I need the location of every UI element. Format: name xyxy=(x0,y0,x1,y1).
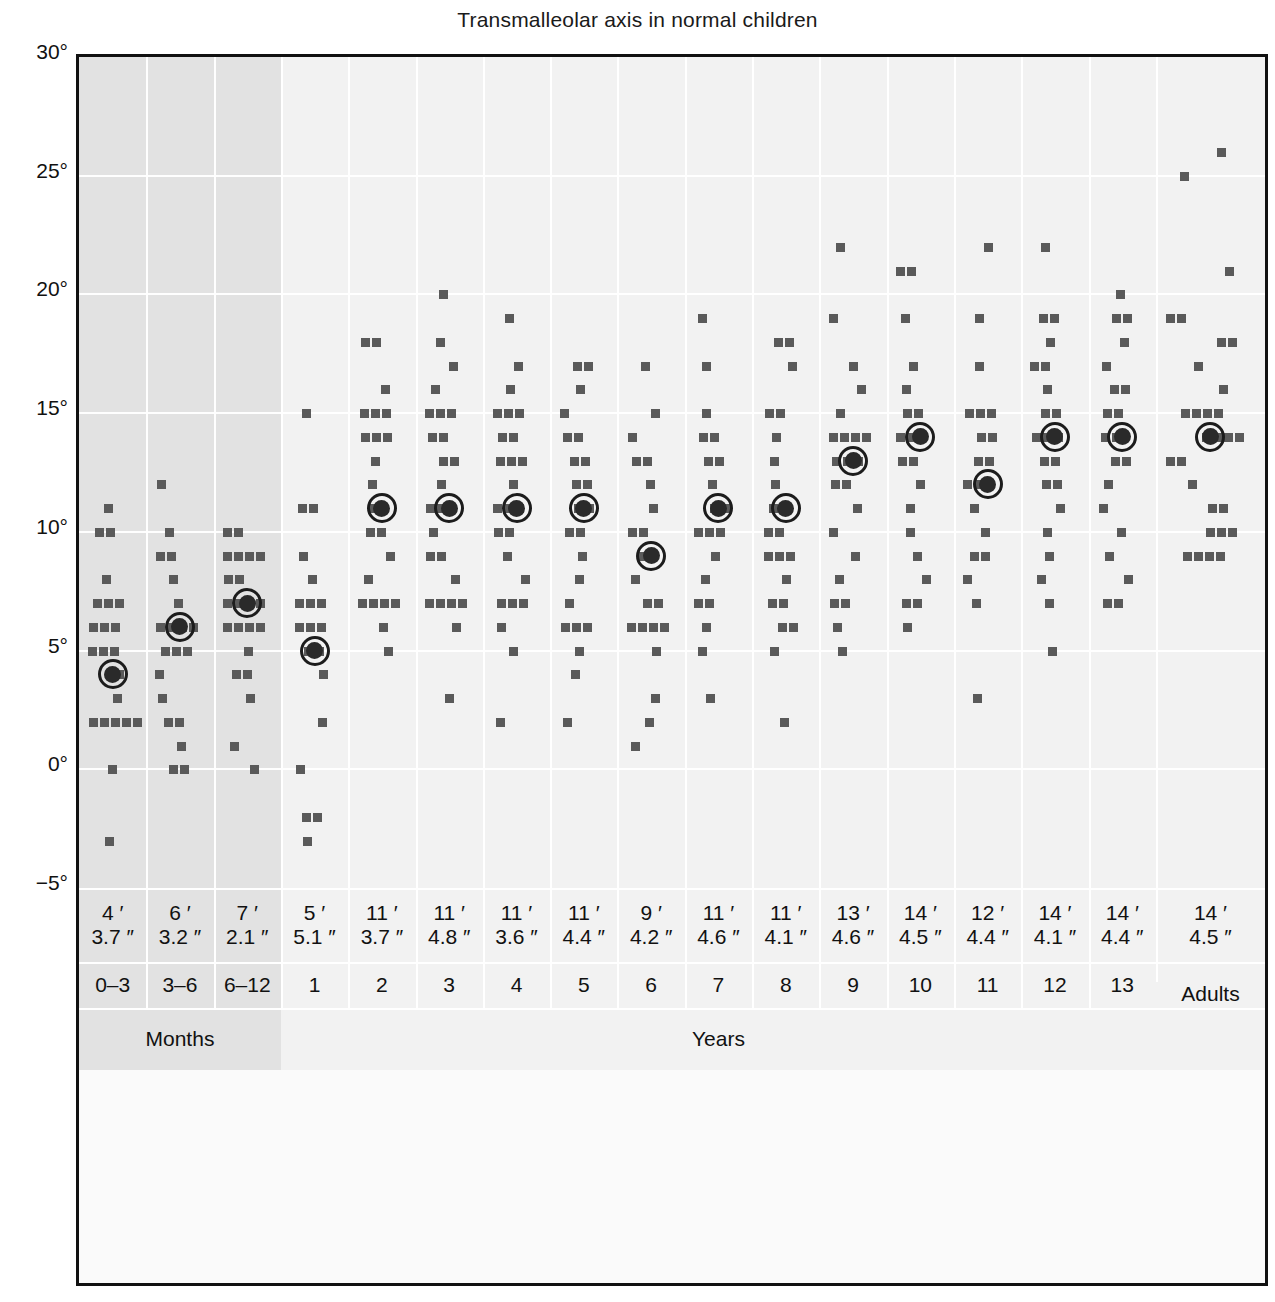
data-point xyxy=(382,409,391,418)
cell-separator xyxy=(146,962,148,1008)
data-point xyxy=(426,552,435,561)
data-point xyxy=(1037,575,1046,584)
column-separator xyxy=(281,57,283,888)
age-label: 3–6 xyxy=(146,962,213,1008)
data-point xyxy=(379,623,388,632)
data-point xyxy=(972,599,981,608)
data-point xyxy=(701,575,710,584)
y-axis-tick-0: 0° xyxy=(0,752,68,776)
data-point xyxy=(439,457,448,466)
data-point xyxy=(699,433,708,442)
mean-value: 9 ′ xyxy=(640,901,661,925)
data-point xyxy=(702,623,711,632)
data-point xyxy=(439,290,448,299)
data-point xyxy=(431,385,440,394)
data-point xyxy=(651,694,660,703)
data-point xyxy=(95,528,104,537)
data-point xyxy=(308,575,317,584)
stats-cell: 14 ′4.4 ″ xyxy=(1089,888,1156,962)
data-point xyxy=(851,433,860,442)
data-point xyxy=(234,552,243,561)
data-point xyxy=(649,504,658,513)
data-point xyxy=(105,837,114,846)
data-point xyxy=(498,433,507,442)
column-separator xyxy=(685,57,687,888)
data-point xyxy=(581,457,590,466)
cell-separator xyxy=(348,962,350,1008)
data-point xyxy=(449,362,458,371)
data-point xyxy=(913,552,922,561)
data-point xyxy=(223,552,232,561)
data-point xyxy=(907,267,916,276)
data-point xyxy=(706,694,715,703)
data-point xyxy=(113,694,122,703)
sd-value: 4.4 ″ xyxy=(1101,925,1143,949)
y-axis-tick-25: 25° xyxy=(0,159,68,183)
data-point xyxy=(973,694,982,703)
data-point xyxy=(165,528,174,537)
data-point xyxy=(705,528,714,537)
mean-marker-dot xyxy=(306,642,323,659)
data-point xyxy=(987,409,996,418)
age-label: 8 xyxy=(752,962,819,1008)
data-point xyxy=(862,433,871,442)
y-axis-tick--5: −5° xyxy=(0,871,68,895)
cell-separator xyxy=(954,962,956,1008)
data-point xyxy=(507,457,516,466)
mean-value: 14 ′ xyxy=(1038,901,1071,925)
cell-separator xyxy=(281,888,283,962)
data-point xyxy=(161,647,170,656)
data-point xyxy=(785,338,794,347)
data-point xyxy=(230,742,239,751)
data-point xyxy=(1228,528,1237,537)
data-point xyxy=(371,409,380,418)
data-point xyxy=(437,552,446,561)
chart-title: Transmalleolar axis in normal children xyxy=(0,8,1275,32)
data-point xyxy=(705,599,714,608)
data-point xyxy=(223,528,232,537)
data-point xyxy=(1120,338,1129,347)
data-point xyxy=(508,599,517,608)
data-point xyxy=(89,718,98,727)
data-point xyxy=(93,599,102,608)
cell-separator xyxy=(214,888,216,962)
data-point xyxy=(1045,552,1054,561)
unit-label-years: Years xyxy=(281,1008,1156,1070)
stats-row: 4 ′3.7 ″6 ′3.2 ″7 ′2.1 ″5 ′5.1 ″11 ′3.7 … xyxy=(79,888,1265,962)
cell-separator xyxy=(483,962,485,1008)
cell-separator xyxy=(1089,888,1091,962)
data-point xyxy=(649,623,658,632)
data-point xyxy=(916,480,925,489)
mean-value: 11 ′ xyxy=(770,901,802,925)
data-point xyxy=(447,409,456,418)
data-point xyxy=(906,528,915,537)
data-point xyxy=(361,433,370,442)
data-point xyxy=(104,599,113,608)
data-point xyxy=(981,528,990,537)
data-point xyxy=(425,599,434,608)
cell-separator xyxy=(1021,888,1023,962)
mean-value: 11 ′ xyxy=(703,901,735,925)
data-point xyxy=(857,385,866,394)
data-point xyxy=(102,575,111,584)
stats-cell: 14 ′4.5 ″ xyxy=(1156,888,1265,962)
mean-marker-dot xyxy=(710,500,727,517)
data-point xyxy=(1180,172,1189,181)
column-separator xyxy=(752,57,754,888)
data-point xyxy=(369,599,378,608)
data-point xyxy=(1053,480,1062,489)
data-point xyxy=(425,409,434,418)
cell-separator xyxy=(550,888,552,962)
sd-value: 4.6 ″ xyxy=(832,925,874,949)
data-point xyxy=(570,457,579,466)
data-point xyxy=(901,314,910,323)
data-point xyxy=(89,623,98,632)
mean-value: 11 ′ xyxy=(568,901,600,925)
data-point xyxy=(183,647,192,656)
cell-separator xyxy=(416,888,418,962)
column-separator xyxy=(348,57,350,888)
data-point xyxy=(1048,647,1057,656)
data-point xyxy=(115,599,124,608)
stats-cell: 11 ′4.1 ″ xyxy=(752,888,819,962)
data-point xyxy=(922,575,931,584)
